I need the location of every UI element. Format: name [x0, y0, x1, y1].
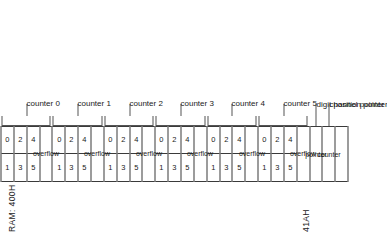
memory-column: 10: [1, 126, 14, 182]
memory-cell-value: 4: [185, 137, 189, 145]
memory-cell-digit: 3: [168, 154, 180, 183]
memory-cell-digit: 2: [220, 126, 232, 154]
memory-cell-digit: 5: [78, 154, 90, 183]
memory-cell-digit: 3: [65, 154, 77, 183]
memory-cell-label: overflow: [135, 151, 161, 158]
memory-cell-value: 5: [31, 164, 35, 172]
memory-column: overflow: [245, 126, 258, 182]
memory-cell-label: overflow: [84, 151, 110, 158]
memory-cell-digit: 1: [258, 154, 270, 183]
memory-column: 32: [14, 126, 27, 182]
memory-cell-digit: 3: [117, 154, 129, 183]
memory-cell-digit: 0: [207, 126, 219, 154]
memory-cell-value: 3: [223, 164, 227, 172]
memory-column: 32: [220, 126, 233, 182]
memory-cell-label: overflow: [32, 151, 58, 158]
counter-group-brace: counter 5: [258, 116, 307, 126]
pointer-leader-line: digit position pointer: [315, 104, 316, 126]
memory-column: 32: [271, 126, 284, 182]
counter-group-label: counter 3: [180, 99, 213, 108]
memory-cell-digit: 0: [155, 126, 167, 154]
memory-cell-digit: 5: [284, 154, 296, 183]
memory-cell-digit: 1: [155, 154, 167, 183]
memory-cell-digit: 1: [207, 154, 219, 183]
memory-cell-digit: 3: [220, 154, 232, 183]
memory-cell-digit: 0: [52, 126, 64, 154]
memory-cell-value: 1: [211, 164, 215, 172]
memory-cell-value: 1: [5, 164, 9, 172]
counter-group-brace: counter 0: [1, 116, 50, 126]
memory-cell-value: 0: [56, 137, 60, 145]
counter-group-label: counter 1: [77, 99, 110, 108]
memory-cell-value: 1: [159, 164, 163, 172]
memory-cell-digit: 1: [52, 154, 64, 183]
memory-cell-value: 0: [211, 137, 215, 145]
memory-cell-strip: 103254overflow103254overflow103254overfl…: [0, 126, 348, 182]
memory-cell-digit: 4: [78, 126, 90, 154]
memory-cell-value: 4: [31, 137, 35, 145]
memory-column: 32: [117, 126, 130, 182]
memory-cell-digit: 2: [14, 126, 26, 154]
memory-cell-value: 5: [288, 164, 292, 172]
memory-cell-overflow: overflow: [91, 126, 103, 182]
ram-end-address-label: 41AH: [300, 209, 310, 232]
memory-cell-digit: 4: [181, 126, 193, 154]
memory-column: 32: [65, 126, 78, 182]
memory-cell-value: 4: [82, 137, 86, 145]
memory-column: overflow: [40, 126, 53, 182]
counter-group-brace: counter 4: [207, 116, 256, 126]
memory-cell-value: 3: [275, 164, 279, 172]
memory-cell-digit: 0: [258, 126, 270, 154]
memory-cell-digit: 2: [117, 126, 129, 154]
memory-cell-value: 0: [5, 137, 9, 145]
group-brace-column: counter 0counter 1counter 2counter 3coun…: [0, 0, 347, 126]
memory-cell-value: 3: [18, 164, 22, 172]
pointer-leader-line: channel pointer: [328, 104, 329, 126]
memory-column: overflow: [142, 126, 155, 182]
memory-column: counter: [322, 126, 335, 182]
memory-cell-digit: 5: [232, 154, 244, 183]
memory-column: overflow: [91, 126, 104, 182]
memory-cell-overflow: overflow: [142, 126, 154, 182]
memory-cell-digit: 4: [27, 126, 39, 154]
memory-cell-digit: 0: [104, 126, 116, 154]
memory-cell-digit: 4: [232, 126, 244, 154]
memory-cell-digit: 1: [104, 154, 116, 183]
counter-group-label: counter 2: [129, 99, 162, 108]
memory-cell-overflow: overflow: [245, 126, 257, 182]
memory-cell-value: 2: [172, 137, 176, 145]
counter-group-label: counter 4: [231, 99, 264, 108]
memory-cell-value: 1: [262, 164, 266, 172]
memory-cell-value: 4: [288, 137, 292, 145]
memory-cell-value: 2: [18, 137, 22, 145]
memory-cell-label: overflow: [187, 151, 213, 158]
memory-column: overflow: [194, 126, 207, 182]
memory-cell-digit: 0: [1, 126, 13, 154]
memory-cell-digit: 1: [1, 154, 13, 183]
memory-cell-label: overflow: [238, 151, 264, 158]
memory-cell-digit: 5: [181, 154, 193, 183]
memory-cell-value: 5: [82, 164, 86, 172]
memory-cell-value: 3: [69, 164, 73, 172]
counter-group-label: counter 0: [26, 99, 59, 108]
memory-cell-value: 0: [159, 137, 163, 145]
memory-cell-digit: 5: [130, 154, 142, 183]
memory-cell-digit: 5: [27, 154, 39, 183]
memory-cell-value: 5: [185, 164, 189, 172]
memory-cell-value: 5: [236, 164, 240, 172]
memory-cell-value: 3: [172, 164, 176, 172]
memory-cell-digit: 3: [271, 154, 283, 183]
memory-column: 32: [168, 126, 181, 182]
memory-cell-value: 2: [69, 137, 73, 145]
memory-cell-value: 0: [108, 137, 112, 145]
memory-cell-value: 4: [133, 137, 137, 145]
memory-cell-counter: counter: [322, 126, 334, 182]
memory-cell-digit: 4: [130, 126, 142, 154]
memory-cell-value: 4: [236, 137, 240, 145]
counter-group-brace: counter 3: [155, 116, 204, 126]
memory-cell-value: 1: [108, 164, 112, 172]
memory-cell-value: 3: [121, 164, 125, 172]
counter-group-brace: counter 2: [104, 116, 153, 126]
counter-group-brace: counter 1: [52, 116, 101, 126]
